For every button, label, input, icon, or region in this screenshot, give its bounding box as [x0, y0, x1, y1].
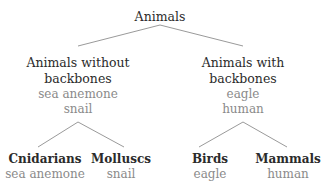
edge-root-with [160, 25, 243, 46]
edge-root-without [78, 25, 160, 46]
edge-with-mammals [243, 122, 287, 147]
example-item: eagle [202, 87, 285, 102]
leaf-label: Molluscs [91, 151, 151, 167]
edge-with-birds [199, 122, 243, 147]
leaf-cnidarians: Cnidarians sea anemone [5, 151, 85, 182]
node-label-line1: Animals without [26, 55, 129, 71]
node-label-line2: backbones [202, 71, 285, 87]
node-label-line1: Animals with [202, 55, 285, 71]
example-item: sea anemone [5, 167, 85, 182]
example-item: snail [26, 102, 129, 117]
leaf-label: Mammals [255, 151, 321, 167]
edge-without-molluscs [78, 122, 124, 147]
example-item: human [202, 102, 285, 117]
example-item: sea anemone [26, 87, 129, 102]
leaf-mammals: Mammals human [255, 151, 321, 182]
node-label-line2: backbones [26, 71, 129, 87]
leaf-label: Cnidarians [5, 151, 85, 167]
leaf-molluscs: Molluscs snail [91, 151, 151, 182]
node-animals-with-backbones: Animals with backbones eagle human [202, 55, 285, 116]
example-item: snail [91, 167, 151, 182]
node-animals-without-backbones: Animals without backbones sea anemone sn… [26, 55, 129, 116]
root-node: Animals [135, 9, 186, 25]
example-item: eagle [192, 167, 228, 182]
leaf-label: Birds [192, 151, 228, 167]
example-item: human [255, 167, 321, 182]
root-label: Animals [135, 9, 186, 25]
edge-without-cnidarians [38, 122, 78, 147]
leaf-birds: Birds eagle [192, 151, 228, 182]
